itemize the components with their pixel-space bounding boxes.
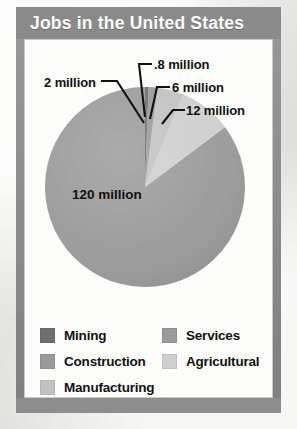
legend-item-services[interactable]: Services <box>162 324 240 346</box>
title-bar: Jobs in the United States <box>16 7 281 39</box>
legend-item-construction[interactable]: Construction <box>40 350 146 372</box>
content-panel: 2 million .8 million 6 million 12 millio… <box>24 39 273 398</box>
legend-label-mining: Mining <box>64 328 106 343</box>
callout-2-million: 2 million <box>44 75 96 90</box>
legend: Mining Services Construction Agricultura… <box>24 322 273 398</box>
callout-6-million: 6 million <box>172 80 224 95</box>
legend-label-services: Services <box>186 328 240 343</box>
page-title: Jobs in the United States <box>16 13 244 34</box>
legend-swatch-mining <box>40 328 55 343</box>
legend-label-agricultural: Agricultural <box>186 354 259 369</box>
legend-swatch-agricultural <box>162 354 177 369</box>
callout-12-million: 12 million <box>186 103 245 118</box>
callout-120-million: 120 million <box>72 187 142 202</box>
callout-point-eight-million: .8 million <box>154 57 209 72</box>
legend-item-manufacturing[interactable]: Manufacturing <box>40 376 154 398</box>
legend-swatch-manufacturing <box>40 380 55 395</box>
legend-swatch-construction <box>40 354 55 369</box>
legend-item-mining[interactable]: Mining <box>40 324 106 346</box>
frame-bottom-strip <box>16 398 281 413</box>
pie-chart: 2 million .8 million 6 million 12 millio… <box>24 39 273 319</box>
poster-frame: Jobs in the United States <box>16 7 281 413</box>
legend-swatch-services <box>162 328 177 343</box>
legend-label-manufacturing: Manufacturing <box>64 380 154 395</box>
legend-label-construction: Construction <box>64 354 146 369</box>
legend-item-agricultural[interactable]: Agricultural <box>162 350 259 372</box>
